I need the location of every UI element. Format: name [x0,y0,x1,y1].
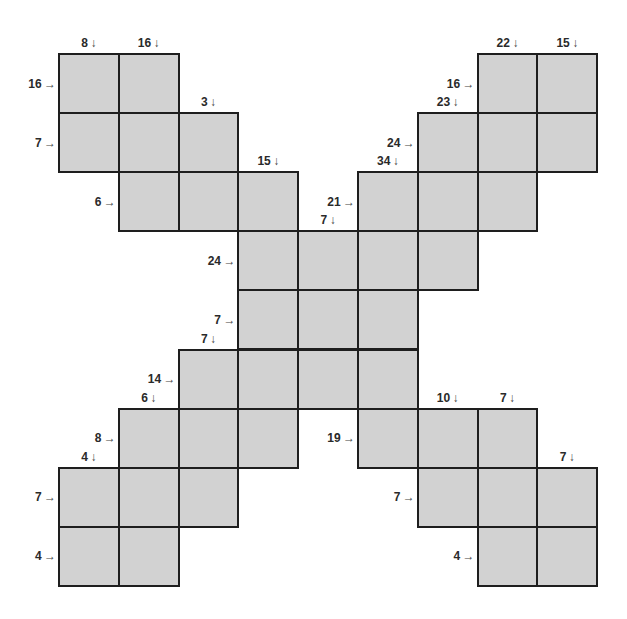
grid-cell[interactable] [118,467,180,528]
arrow-right-icon: → [44,136,56,150]
grid-cell[interactable] [118,112,180,173]
across-clue: 7 → [35,136,56,150]
grid-cell[interactable] [536,526,598,587]
down-clue: 7 ↓ [201,332,216,346]
down-clue: 15 ↓ [257,154,279,168]
clue-number: 16 [28,77,41,91]
arrow-right-icon: → [223,254,235,268]
grid-cell[interactable] [417,230,479,291]
down-clue: 34 ↓ [377,154,399,168]
grid-cell[interactable] [477,408,539,469]
down-clue: 22 ↓ [497,36,519,50]
clue-number: 24 [387,136,400,150]
grid-cell[interactable] [58,112,120,173]
grid-cell[interactable] [536,53,598,114]
clue-number: 4 [454,549,461,563]
clue-number: 19 [327,431,340,445]
grid-cell[interactable] [417,112,479,173]
clue-number: 7 [500,391,507,405]
arrow-down-icon: ↓ [330,213,336,227]
clue-number: 7 [35,490,42,504]
grid-cell[interactable] [58,467,120,528]
clue-number: 22 [497,36,510,50]
arrow-down-icon: ↓ [90,36,96,50]
arrow-right-icon: → [104,195,116,209]
arrow-down-icon: ↓ [453,391,459,405]
clue-number: 16 [447,77,460,91]
across-clue: 16 → [447,77,475,91]
clue-number: 34 [377,154,390,168]
across-clue: 14 → [148,372,176,386]
arrow-down-icon: ↓ [509,391,515,405]
clue-number: 7 [560,450,567,464]
grid-cell[interactable] [536,467,598,528]
grid-cell[interactable] [118,408,180,469]
grid-cell[interactable] [58,526,120,587]
down-clue: 16 ↓ [138,36,160,50]
grid-cell[interactable] [237,349,299,410]
grid-cell[interactable] [417,467,479,528]
arrow-down-icon: ↓ [154,36,160,50]
across-clue: 16 → [28,77,56,91]
grid-cell[interactable] [477,112,539,173]
arrow-down-icon: ↓ [210,95,216,109]
grid-cell[interactable] [297,289,359,350]
grid-cell[interactable] [118,171,180,232]
arrow-right-icon: → [403,136,415,150]
grid-cell[interactable] [178,408,240,469]
grid-cell[interactable] [118,53,180,114]
down-clue: 7 ↓ [500,391,515,405]
clue-number: 14 [148,372,161,386]
grid-cell[interactable] [357,230,419,291]
across-clue: 6 → [95,195,116,209]
grid-cell[interactable] [237,289,299,350]
arrow-down-icon: ↓ [210,332,216,346]
grid-cell[interactable] [118,526,180,587]
across-clue: 4 → [35,549,56,563]
clue-number: 21 [327,195,340,209]
down-clue: 7 ↓ [560,450,575,464]
grid-cell[interactable] [357,349,419,410]
grid-cell[interactable] [237,408,299,469]
arrow-down-icon: ↓ [393,154,399,168]
clue-number: 23 [437,95,450,109]
arrow-down-icon: ↓ [569,450,575,464]
grid-cell[interactable] [237,230,299,291]
clue-number: 7 [321,213,328,227]
across-clue: 19 → [327,431,355,445]
grid-cell[interactable] [58,53,120,114]
grid-cell[interactable] [357,408,419,469]
down-clue: 15 ↓ [556,36,578,50]
grid-cell[interactable] [178,171,240,232]
clue-number: 6 [95,195,102,209]
grid-cell[interactable] [477,526,539,587]
grid-cell[interactable] [477,467,539,528]
down-clue: 6 ↓ [141,391,156,405]
grid-cell[interactable] [237,171,299,232]
grid-cell[interactable] [297,230,359,291]
grid-cell[interactable] [417,171,479,232]
grid-cell[interactable] [178,467,240,528]
arrow-right-icon: → [343,195,355,209]
grid-cell[interactable] [357,171,419,232]
across-clue: 21 → [327,195,355,209]
grid-cell[interactable] [178,112,240,173]
grid-cell[interactable] [536,112,598,173]
arrow-right-icon: → [403,490,415,504]
clue-number: 24 [208,254,221,268]
across-clue: 24 → [208,254,236,268]
grid-cell[interactable] [477,53,539,114]
grid-cell[interactable] [178,349,240,410]
grid-cell[interactable] [417,408,479,469]
across-clue: 7 → [35,490,56,504]
clue-number: 6 [141,391,148,405]
clue-number: 8 [81,36,88,50]
arrow-right-icon: → [44,77,56,91]
grid-cell[interactable] [297,349,359,410]
clue-number: 4 [81,450,88,464]
grid-cell[interactable] [477,171,539,232]
down-clue: 8 ↓ [81,36,96,50]
arrow-right-icon: → [343,431,355,445]
grid-cell[interactable] [357,289,419,350]
arrow-right-icon: → [104,431,116,445]
